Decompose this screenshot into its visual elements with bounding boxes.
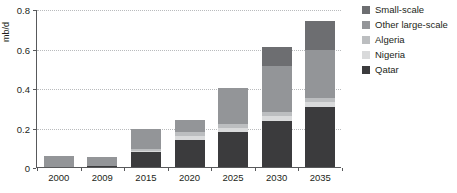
x-tick-mark bbox=[255, 168, 256, 171]
x-tick-label: 2025 bbox=[222, 172, 243, 183]
x-tick-label: 2009 bbox=[92, 172, 113, 183]
legend-item-label: Small-scale bbox=[375, 5, 424, 15]
y-tick-mark bbox=[33, 129, 36, 130]
legend-item[interactable]: Small-scale bbox=[362, 5, 448, 15]
legend-item-label: Other large-scale bbox=[375, 20, 448, 30]
legend-item[interactable]: Nigeria bbox=[362, 50, 448, 60]
bar-segment-other-large-scale bbox=[44, 156, 74, 167]
x-tick-mark bbox=[298, 168, 299, 171]
y-tick-label: 0.4 bbox=[17, 84, 30, 95]
legend-swatch-icon bbox=[362, 36, 370, 44]
legend-item[interactable]: Qatar bbox=[362, 65, 448, 75]
y-tick-label: 0.6 bbox=[17, 44, 30, 55]
legend-swatch-icon bbox=[362, 51, 370, 59]
x-tick-mark bbox=[168, 168, 169, 171]
stacked-bar[interactable] bbox=[175, 120, 205, 167]
x-tick-mark bbox=[342, 168, 343, 171]
y-tick-mark bbox=[33, 50, 36, 51]
x-tick-label: 2000 bbox=[48, 172, 69, 183]
legend-item-label: Algeria bbox=[375, 35, 405, 45]
bar-segment-other-large-scale bbox=[262, 66, 292, 112]
bar-slot bbox=[131, 10, 161, 167]
bar-segment-other-large-scale bbox=[175, 120, 205, 132]
y-axis-title: mb/d bbox=[1, 22, 11, 42]
y-tick-label: 0.2 bbox=[17, 123, 30, 134]
bar-segment-small-scale bbox=[262, 47, 292, 66]
y-tick-mark bbox=[33, 10, 36, 11]
legend-swatch-icon bbox=[362, 6, 370, 14]
x-tick-mark bbox=[124, 168, 125, 171]
legend-item-label: Nigeria bbox=[375, 50, 405, 60]
bar-segment-other-large-scale bbox=[87, 157, 117, 165]
bar-segment-small-scale bbox=[305, 21, 335, 50]
x-tick-label: 2035 bbox=[310, 172, 331, 183]
bar-segment-other-large-scale bbox=[218, 88, 248, 124]
legend-swatch-icon bbox=[362, 21, 370, 29]
bar-slot bbox=[44, 10, 74, 167]
legend: Small-scaleOther large-scaleAlgeriaNiger… bbox=[362, 5, 448, 75]
y-tick-mark bbox=[33, 89, 36, 90]
bar-group bbox=[37, 10, 341, 167]
x-axis-line bbox=[36, 167, 341, 168]
stacked-bar[interactable] bbox=[305, 21, 335, 167]
x-tick-mark bbox=[37, 168, 38, 171]
bar-segment-other-large-scale bbox=[305, 50, 335, 98]
y-tick-mark bbox=[33, 168, 36, 169]
plot-area: 00.20.40.60.8 bbox=[36, 10, 341, 168]
x-tick-mark bbox=[211, 168, 212, 171]
stacked-bar-chart: mb/d 00.20.40.60.8 200020092015202020252… bbox=[0, 0, 457, 193]
stacked-bar[interactable] bbox=[131, 129, 161, 167]
bar-slot bbox=[175, 10, 205, 167]
x-tick-mark bbox=[81, 168, 82, 171]
stacked-bar[interactable] bbox=[44, 156, 74, 167]
x-tick-label: 2030 bbox=[266, 172, 287, 183]
bar-slot bbox=[218, 10, 248, 167]
y-tick-label: 0.8 bbox=[17, 5, 30, 16]
stacked-bar[interactable] bbox=[87, 157, 117, 167]
bar-segment-other-large-scale bbox=[131, 129, 161, 149]
bar-segment-qatar bbox=[305, 107, 335, 167]
bar-slot bbox=[87, 10, 117, 167]
bar-segment-qatar bbox=[175, 140, 205, 167]
legend-item-label: Qatar bbox=[375, 65, 399, 75]
bar-segment-qatar bbox=[131, 152, 161, 167]
bar-segment-qatar bbox=[262, 121, 292, 167]
bar-segment-qatar bbox=[218, 132, 248, 167]
bar-segment-qatar bbox=[87, 166, 117, 167]
stacked-bar[interactable] bbox=[218, 88, 248, 167]
legend-swatch-icon bbox=[362, 66, 370, 74]
legend-item[interactable]: Algeria bbox=[362, 35, 448, 45]
stacked-bar[interactable] bbox=[262, 47, 292, 167]
x-tick-label: 2020 bbox=[179, 172, 200, 183]
legend-item[interactable]: Other large-scale bbox=[362, 20, 448, 30]
x-tick-label: 2015 bbox=[135, 172, 156, 183]
bar-slot bbox=[305, 10, 335, 167]
bar-slot bbox=[262, 10, 292, 167]
y-tick-label: 0 bbox=[25, 163, 30, 174]
